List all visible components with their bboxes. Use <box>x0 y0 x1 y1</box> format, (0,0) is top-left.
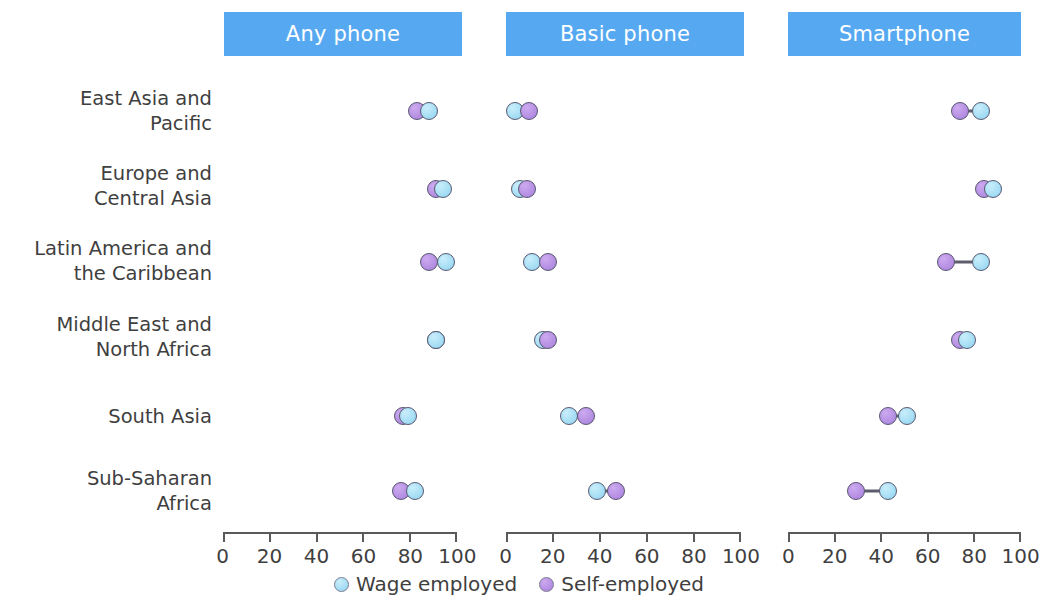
data-point-wage-employed[interactable] <box>972 102 990 120</box>
x-axis-basic-phone: 020406080100 <box>506 532 741 542</box>
axis-tick <box>552 532 554 542</box>
axis-tick-label: 60 <box>915 544 940 568</box>
circle-blue-icon <box>334 577 349 592</box>
axis-tick <box>739 532 741 542</box>
panel-header-smartphone: Smartphone <box>788 12 1021 56</box>
axis-tick <box>834 532 836 542</box>
axis-tick <box>973 532 975 542</box>
legend-label: Self-employed <box>561 572 704 596</box>
axis-tick-label: 20 <box>540 544 565 568</box>
data-point-wage-employed[interactable] <box>984 180 1002 198</box>
x-axis-any-phone: 020406080100 <box>223 532 458 542</box>
axis-tick-label: 40 <box>304 544 329 568</box>
data-point-wage-employed[interactable] <box>898 407 916 425</box>
axis-tick-label: 80 <box>398 544 423 568</box>
axis-tick-label: 0 <box>499 544 512 568</box>
axis-tick-label: 100 <box>722 544 760 568</box>
panel-header-basic-phone: Basic phone <box>506 12 744 56</box>
data-point-wage-employed[interactable] <box>427 331 445 349</box>
data-point-wage-employed[interactable] <box>879 482 897 500</box>
data-point-wage-employed[interactable] <box>972 253 990 271</box>
x-axis-smartphone: 020406080100 <box>788 532 1020 542</box>
data-point-self-employed[interactable] <box>879 407 897 425</box>
data-point-wage-employed[interactable] <box>399 407 417 425</box>
plot-area-any-phone <box>223 78 458 530</box>
category-label: Sub-Saharan Africa <box>87 466 212 516</box>
axis-tick-label: 20 <box>822 544 847 568</box>
data-point-self-employed[interactable] <box>607 482 625 500</box>
data-point-wage-employed[interactable] <box>523 253 541 271</box>
data-point-self-employed[interactable] <box>577 407 595 425</box>
legend-label: Wage employed <box>356 572 517 596</box>
axis-tick <box>693 532 695 542</box>
axis-tick <box>409 532 411 542</box>
axis-tick <box>223 532 225 542</box>
axis-tick <box>506 532 508 542</box>
data-point-self-employed[interactable] <box>847 482 865 500</box>
axis-tick <box>269 532 271 542</box>
legend-item-wage-employed: Wage employed <box>334 572 517 596</box>
plot-area-smartphone <box>788 78 1020 530</box>
data-point-self-employed[interactable] <box>539 331 557 349</box>
panel-title: Basic phone <box>560 22 690 46</box>
panel-title: Any phone <box>286 22 400 46</box>
axis-tick-label: 60 <box>634 544 659 568</box>
axis-tick <box>316 532 318 542</box>
axis-tick-label: 40 <box>869 544 894 568</box>
axis-tick <box>880 532 882 542</box>
data-point-wage-employed[interactable] <box>406 482 424 500</box>
plot-area-basic-phone <box>506 78 741 530</box>
chart-legend: Wage employed Self-employed <box>0 572 1038 596</box>
data-point-wage-employed[interactable] <box>437 253 455 271</box>
category-label: South Asia <box>108 404 212 429</box>
axis-tick-label: 20 <box>257 544 282 568</box>
data-point-wage-employed[interactable] <box>420 102 438 120</box>
data-point-self-employed[interactable] <box>420 253 438 271</box>
data-point-wage-employed[interactable] <box>958 331 976 349</box>
axis-tick <box>927 532 929 542</box>
axis-tick <box>362 532 364 542</box>
axis-tick-label: 80 <box>961 544 986 568</box>
data-point-self-employed[interactable] <box>518 180 536 198</box>
axis-tick-label: 80 <box>681 544 706 568</box>
data-point-wage-employed[interactable] <box>560 407 578 425</box>
category-label: Europe and Central Asia <box>94 161 212 211</box>
axis-tick-label: 100 <box>1002 544 1040 568</box>
panel-header-any-phone: Any phone <box>224 12 462 56</box>
category-label: Middle East and North Africa <box>56 312 212 362</box>
data-point-self-employed[interactable] <box>520 102 538 120</box>
category-label: Latin America and the Caribbean <box>34 236 212 286</box>
circle-purple-icon <box>539 577 554 592</box>
axis-tick <box>788 532 790 542</box>
axis-tick <box>646 532 648 542</box>
data-point-self-employed[interactable] <box>937 253 955 271</box>
axis-tick-label: 0 <box>216 544 229 568</box>
data-point-wage-employed[interactable] <box>434 180 452 198</box>
panel-title: Smartphone <box>839 22 970 46</box>
category-axis-labels: East Asia and Pacific Europe and Central… <box>0 0 212 603</box>
category-label: East Asia and Pacific <box>80 86 212 136</box>
axis-tick-label: 0 <box>782 544 795 568</box>
axis-tick <box>1019 532 1021 542</box>
data-point-self-employed[interactable] <box>951 102 969 120</box>
axis-tick-label: 40 <box>587 544 612 568</box>
legend-item-self-employed: Self-employed <box>539 572 704 596</box>
data-point-wage-employed[interactable] <box>588 482 606 500</box>
axis-line <box>788 532 1020 534</box>
data-point-self-employed[interactable] <box>539 253 557 271</box>
axis-line <box>506 532 741 534</box>
axis-tick-label: 100 <box>438 544 476 568</box>
axis-tick <box>599 532 601 542</box>
axis-line <box>223 532 458 534</box>
axis-tick-label: 60 <box>351 544 376 568</box>
axis-tick <box>455 532 457 542</box>
